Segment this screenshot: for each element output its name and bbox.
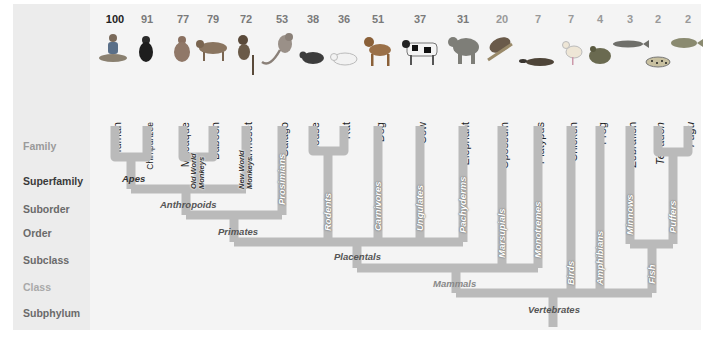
clade-label-minnows: Minnows [624,194,635,235]
clade-label-ungulates: Ungulates [414,185,425,231]
clade-label-apes: Apes [122,173,145,184]
clade-label-marsupials: Marsupials [496,208,507,258]
clade-label-anthropoids: Anthropoids [160,199,216,210]
clade-label-puffers: Puffers [667,200,678,233]
clade-label-rodents: Rodents [322,193,333,231]
clade-label-placentals: Placentals [334,251,381,262]
clade-label-pachyderms: Pachyderms [457,176,468,233]
clade-label-monotremes: Monotremes [532,202,543,258]
clade-label-prosimians: Prosimians [276,154,287,205]
clade-label-old-world-monkeys: Old WorldMonkeys [190,153,206,189]
clade-label-mammals: Mammals [433,278,476,289]
clade-label-vertebrates: Vertebrates [528,304,580,315]
clade-label-birds: Birds [565,261,576,285]
clade-label-new-world-monkeys: New WorldMonkeys [238,150,254,189]
phylogenetic-tree [0,0,712,340]
clade-label-fish: Fish [646,264,657,284]
clade-label-carnivores: Carnivores [372,181,383,231]
clade-label-amphibians: Amphibians [594,231,605,285]
clade-label-primates: Primates [218,226,258,237]
